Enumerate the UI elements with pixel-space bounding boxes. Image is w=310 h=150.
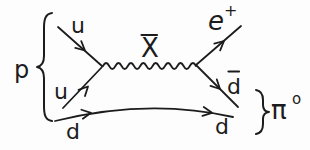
proton-decay-diagram: p u u d X e + d d π o [0,0,310,150]
anti-down-quark-label: d [227,74,241,99]
proton-brace [37,13,52,121]
x-boson-wavy-line [103,63,196,69]
down-quark-out-label: d [215,114,229,139]
down-quark-in-label: d [66,119,80,144]
positron-charge-superscript: + [224,1,237,20]
up-quark-top-label: u [71,13,85,38]
pion-superscript: o [292,90,301,108]
proton-label: p [14,56,29,84]
feynman-diagram-figure: p u u d X e + d d π o [0,0,310,150]
positron-label: e [208,6,224,36]
pion-label: π [271,95,287,125]
up-quark-bottom-label: u [54,79,68,104]
pion-brace [256,90,269,134]
x-boson-label: X [141,33,159,63]
